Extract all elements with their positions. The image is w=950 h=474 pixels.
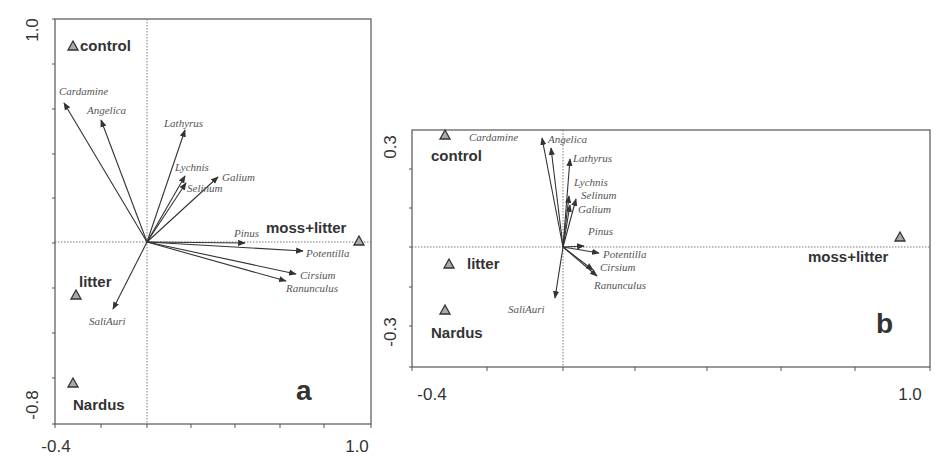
triangle-litter-icon [444,259,454,268]
label-saliauri: SaliAuri [508,303,545,315]
panel-a: 1.0 -0.8 -0.4 1.0 Cardamine Angelica Lat… [23,18,371,456]
label-lychnis: Lychnis [573,176,608,188]
panel-b-ymin-label: -0.3 [381,317,400,346]
label-moss-litter: moss+litter [266,219,347,236]
label-nardus: Nardus [431,324,483,341]
triangle-moss-litter-icon [354,236,364,245]
panel-b: 0.3 -0.3 -0.4 1.0 Cardamine Angelica Lat… [381,130,930,404]
triangle-control-icon [440,130,450,139]
label-cardamine: Cardamine [59,85,108,97]
label-lychnis: Lychnis [174,161,209,173]
label-litter: litter [467,255,500,272]
label-pinus: Pinus [587,225,613,237]
panel-b-xmin-label: -0.4 [417,385,446,404]
label-control: control [80,37,131,54]
label-ranunculus: Ranunculus [285,282,338,294]
triangle-moss-litter-icon [895,232,905,241]
label-cardamine: Cardamine [469,131,518,143]
label-pinus: Pinus [233,227,259,239]
label-litter: litter [79,273,112,290]
arrow-selinum [147,183,186,242]
panel-b-letter: b [876,308,893,339]
arrow-angelica [551,148,563,247]
label-selinum: Selinum [187,182,222,194]
arrow-ranunculus [147,242,286,281]
panel-a-treatments: control moss+litter litter Nardus [68,37,364,413]
arrow-saliauri [555,247,563,298]
label-angelica: Angelica [547,133,588,145]
label-angelica: Angelica [86,104,127,116]
panel-a-xmin-label: -0.4 [41,437,70,456]
label-cirsium: Cirsium [300,269,336,281]
arrow-cardamine [542,138,563,247]
panel-b-x-ticks [412,367,930,371]
biplot-figure: 1.0 -0.8 -0.4 1.0 Cardamine Angelica Lat… [0,0,950,474]
label-lathyrus: Lathyrus [163,117,203,129]
arrow-saliauri [113,242,147,309]
triangle-nardus-icon [68,378,78,387]
label-ranunculus: Ranunculus [593,279,646,291]
triangle-control-icon [68,41,78,50]
label-potentilla: Potentilla [602,248,647,260]
panel-a-ymin-label: -0.8 [23,390,42,419]
triangle-nardus-icon [440,305,450,314]
label-galium: Galium [222,171,255,183]
label-nardus: Nardus [73,396,125,413]
label-saliauri: SaliAuri [89,315,126,327]
label-galium: Galium [578,203,611,215]
arrow-angelica [101,120,147,242]
panel-a-letter: a [296,375,312,406]
label-cirsium: Cirsium [600,261,636,273]
label-selinum: Selinum [581,189,616,201]
label-control: control [431,147,482,164]
panel-a-ymax-label: 1.0 [23,18,42,42]
triangle-litter-icon [71,290,81,299]
panel-a-species-labels: Cardamine Angelica Lathyrus Lychnis Seli… [59,85,350,327]
panel-b-ymax-label: 0.3 [381,135,400,159]
label-moss-litter: moss+litter [808,248,889,265]
panel-b-xmax-label: 1.0 [898,385,922,404]
arrow-cardamine [64,103,147,242]
panel-a-xmax-label: 1.0 [345,437,369,456]
label-potentilla: Potentilla [305,247,350,259]
label-lathyrus: Lathyrus [572,152,612,164]
panel-b-treatments: control litter Nardus moss+litter [431,130,905,341]
